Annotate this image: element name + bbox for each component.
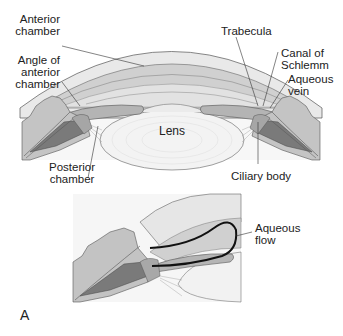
top-eye-cross-section — [20, 37, 322, 178]
label-line: anterior — [8, 66, 60, 78]
label-line: Angle of — [8, 54, 60, 66]
label-canal-of-schlemm: Canal of Schlemm — [281, 47, 329, 71]
label-line: flow — [255, 234, 300, 246]
label-lens: Lens — [152, 125, 192, 137]
label-aqueous-flow: Aqueous flow — [255, 222, 300, 246]
label-line: chamber — [46, 173, 98, 185]
label-ciliary-body: Ciliary body — [231, 170, 291, 182]
label-trabecula: Trabecula — [221, 25, 272, 37]
bottom-aqueous-flow-detail — [73, 194, 252, 302]
label-line: Canal of — [281, 47, 329, 59]
label-line: chamber — [8, 78, 60, 90]
label-line: chamber — [14, 25, 60, 37]
label-angle-of-anterior-chamber: Angle of anterior chamber — [8, 54, 60, 90]
label-line: Aqueous — [288, 73, 333, 85]
label-aqueous-vein: Aqueous vein — [288, 73, 333, 97]
label-anterior-chamber: Anterior chamber — [14, 13, 60, 37]
label-line: Anterior — [14, 13, 60, 25]
panel-label: A — [20, 309, 29, 321]
label-posterior-chamber: Posterior chamber — [46, 161, 98, 185]
label-line: Schlemm — [281, 59, 329, 71]
label-line: Aqueous — [255, 222, 300, 234]
label-line: vein — [288, 85, 333, 97]
label-line: Posterior — [46, 161, 98, 173]
